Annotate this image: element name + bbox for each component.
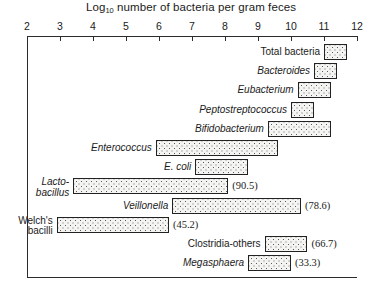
x-tick-12	[357, 36, 358, 41]
percent-label-veillonella: (78.6)	[305, 200, 330, 211]
bar-welch-s-bacilli	[57, 217, 169, 233]
x-tick-label-7: 7	[189, 20, 195, 32]
x-tick-label-2: 2	[24, 20, 30, 32]
x-tick-label-3: 3	[57, 20, 63, 32]
x-tick-2	[27, 36, 28, 41]
x-tick-6	[159, 36, 160, 41]
bar-peptostreptococcus	[291, 102, 314, 118]
percent-label-welch-s-bacilli: (45.2)	[173, 219, 198, 230]
bar-veillonella	[172, 198, 301, 214]
bar-label-e-coli: E. coli	[0, 162, 191, 173]
x-tick-label-6: 6	[156, 20, 162, 32]
chart-title-main: Log	[86, 1, 106, 13]
percent-label-megasphaera: (33.3)	[295, 257, 320, 268]
bar-bacteroides	[314, 63, 337, 79]
x-tick-10	[291, 36, 292, 41]
bar-e-coli	[195, 159, 248, 175]
plot-frame-bottom	[27, 277, 357, 278]
x-tick-4	[93, 36, 94, 41]
x-tick-label-4: 4	[90, 20, 96, 32]
bar-label-eubacterium: Eubacterium	[94, 85, 294, 96]
chart-title-rest: number of bacteria per gram feces	[114, 1, 296, 13]
bar-total-bacteria	[324, 44, 347, 60]
x-tick-3	[60, 36, 61, 41]
x-tick-5	[126, 36, 127, 41]
plot-frame-left	[27, 36, 28, 277]
percent-label-clostridia-others: (66.7)	[312, 238, 337, 249]
bar-label-veillonella: Veillonella	[0, 201, 168, 212]
x-tick-11	[324, 36, 325, 41]
x-tick-7	[192, 36, 193, 41]
bar-label-peptostreptococcus: Peptostreptococcus	[87, 105, 287, 116]
percent-label-lactobacillus: (90.5)	[232, 180, 257, 191]
bar-megasphaera	[248, 255, 291, 271]
x-tick-label-5: 5	[123, 20, 129, 32]
bar-label-enterococcus: Enterococcus	[0, 143, 152, 154]
bar-clostridia-others	[265, 236, 308, 252]
bar-label-welch-s-bacilli: Welch'sbacilli	[0, 216, 53, 237]
bar-label-bifidobacterium: Bifidobacterium	[64, 124, 264, 135]
x-tick-label-9: 9	[255, 20, 261, 32]
x-tick-label-12: 12	[351, 20, 363, 32]
x-tick-8	[225, 36, 226, 41]
bar-label-total-bacteria: Total bacteria	[120, 47, 320, 58]
x-tick-label-10: 10	[285, 20, 297, 32]
bar-lactobacillus	[73, 178, 228, 194]
bar-label-megasphaera: Megasphaera	[44, 258, 244, 269]
bar-eubacterium	[298, 82, 331, 98]
bar-label-bacteroides: Bacteroides	[110, 66, 310, 77]
bar-label-clostridia-others: Clostridia-others	[61, 239, 261, 250]
x-tick-9	[258, 36, 259, 41]
bar-label-lactobacillus: Lacto-bacillus	[0, 177, 69, 198]
x-tick-label-11: 11	[319, 20, 330, 32]
x-tick-label-8: 8	[222, 20, 228, 32]
chart-title-subscript: 10	[105, 6, 113, 15]
bacteria-count-chart: Log10 number of bacteria per gram feces …	[0, 0, 382, 295]
bar-bifidobacterium	[268, 121, 331, 137]
chart-title: Log10 number of bacteria per gram feces	[0, 1, 382, 15]
bar-enterococcus	[156, 140, 278, 156]
